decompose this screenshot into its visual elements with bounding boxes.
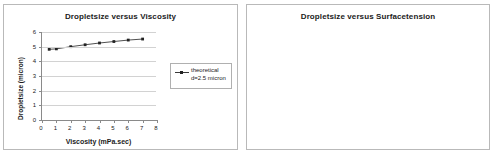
legend-label-line1: theoretical — [191, 67, 219, 73]
legend: theoretical d=2.5 micron — [170, 63, 232, 89]
x-axis-tick — [128, 120, 129, 123]
y-axis-tick-label: 6 — [22, 29, 36, 35]
x-axis-tick — [143, 120, 144, 123]
figure-sheet: Dropletsize versus Viscosity Dropletsize… — [0, 0, 493, 156]
chart-title: Dropletsize versus Viscosity — [4, 12, 237, 21]
y-axis-tick — [39, 91, 42, 92]
y-axis-tick-label: 2 — [22, 88, 36, 94]
plot-area — [41, 32, 156, 120]
chart-panel-surfacetension: Dropletsize versus Surfacetension Drople… — [246, 4, 490, 150]
gridline — [42, 61, 156, 62]
y-axis-tick — [39, 76, 42, 77]
y-axis-tick — [39, 47, 42, 48]
y-axis-tick-label: 5 — [22, 44, 36, 50]
gridline — [42, 76, 156, 77]
y-axis-tick-label: 3 — [22, 73, 36, 79]
y-axis-tick-label: 1 — [22, 102, 36, 108]
legend-marker-icon — [175, 70, 189, 75]
legend-label-line2: d=2.5 micron — [191, 75, 226, 83]
x-axis-tick — [114, 120, 115, 123]
gridline — [42, 32, 156, 33]
x-axis-tick — [157, 120, 158, 123]
chart-panel-viscosity: Dropletsize versus Viscosity Dropletsize… — [3, 4, 238, 150]
gridline — [42, 47, 156, 48]
x-axis-title: Viscosity (mPa.sec) — [41, 138, 156, 145]
x-axis-tick — [85, 120, 86, 123]
y-axis-tick — [39, 32, 42, 33]
chart-title: Dropletsize versus Surfacetension — [247, 12, 489, 21]
y-axis-tick — [39, 105, 42, 106]
x-axis-tick — [42, 120, 43, 123]
legend-label: theoretical d=2.5 micron — [191, 67, 226, 82]
x-axis-tick — [71, 120, 72, 123]
x-axis-tick-label: 8 — [144, 125, 168, 131]
y-axis-tick-label: 4 — [22, 58, 36, 64]
x-axis-tick — [56, 120, 57, 123]
y-axis-tick — [39, 61, 42, 62]
gridline — [42, 105, 156, 106]
chart-surfacetension: Dropletsize versus Surfacetension Drople… — [247, 5, 489, 149]
gridline — [42, 91, 156, 92]
x-axis-tick — [100, 120, 101, 123]
y-axis-tick-label: 0 — [22, 117, 36, 123]
